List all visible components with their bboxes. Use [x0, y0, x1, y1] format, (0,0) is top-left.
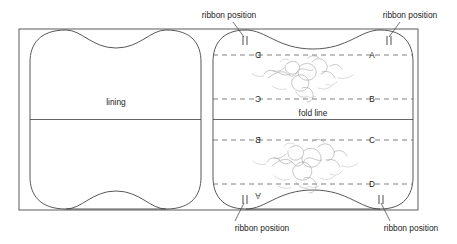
ribbon-leader-top-left — [233, 22, 244, 37]
guide-letter-upper-left-bottom: C — [255, 95, 261, 104]
ribbon-marker-top-left — [233, 22, 247, 45]
lining-panel-left: lining — [30, 30, 201, 209]
guide-letter-lower-left-top: B — [255, 136, 261, 145]
guide-letter-upper-left-top: D — [255, 51, 261, 60]
fold-line-label: fold line — [299, 108, 328, 118]
right-panel-top-scallop — [246, 30, 380, 49]
lining-panel-right: fold line D A C B B C A D — [213, 30, 413, 209]
left-panel-bottom-scallop — [66, 191, 166, 209]
ribbon-position-label-top-left: ribbon position — [202, 10, 257, 20]
guide-letter-lower-left-bottom: A — [255, 191, 261, 200]
lining-label: lining — [106, 97, 126, 107]
guide-letter-upper-right-bottom: B — [369, 95, 375, 104]
ribbon-position-label-top-right: ribbon position — [383, 10, 438, 20]
ribbon-leader-bottom-left — [235, 203, 244, 221]
floral-motif-upper — [252, 56, 353, 102]
pattern-drawing-canvas: lining fold line D A C B B C A D — [0, 0, 457, 244]
right-panel-bottom-scallop — [246, 190, 380, 209]
ribbon-position-label-bottom-left: ribbon position — [235, 223, 290, 233]
ribbon-leader-bottom-right — [381, 203, 390, 221]
ribbon-leader-top-right — [389, 22, 400, 37]
guide-letter-lower-right-bottom: D — [369, 180, 375, 189]
guide-letter-lower-right-top: C — [369, 136, 375, 145]
floral-motif-lower — [253, 139, 358, 193]
ribbon-position-label-bottom-right: ribbon position — [384, 223, 439, 233]
pattern-diagram: lining fold line D A C B B C A D — [0, 0, 457, 244]
left-panel-top-scallop — [66, 30, 166, 48]
guide-letter-upper-right-top: A — [369, 51, 375, 60]
